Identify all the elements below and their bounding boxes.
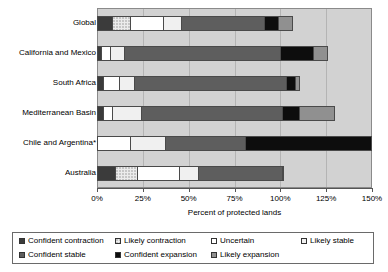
- bar-segment-uncertain[interactable]: [103, 106, 112, 121]
- x-tick-label-50: 50%: [169, 194, 209, 204]
- stacked-bar-south-africa[interactable]: [97, 76, 300, 91]
- bar-segment-confident-stable[interactable]: [181, 16, 264, 31]
- x-tick-25: [143, 188, 144, 192]
- chart-legend: Confident contractionLikely contractionU…: [12, 232, 374, 264]
- stacked-bar-australia[interactable]: [97, 166, 284, 181]
- bar-segment-likely-expansion[interactable]: [313, 46, 328, 61]
- uncertain-swatch: [211, 238, 217, 244]
- category-label-global: Global: [0, 18, 96, 28]
- bar-segment-confident-expansion[interactable]: [280, 46, 313, 61]
- likely-stable-swatch: [301, 238, 307, 244]
- legend-row: Confident contractionLikely contractionU…: [13, 236, 373, 250]
- bar-segment-likely-expansion[interactable]: [295, 76, 301, 91]
- bar-segment-confident-expansion[interactable]: [264, 16, 279, 31]
- likely-contraction-swatch: [115, 238, 121, 244]
- chart-row: Mediterranean Basin: [0, 98, 388, 128]
- x-tick-label-0: 0%: [77, 194, 117, 204]
- legend-item-confident-expansion[interactable]: Confident expansion: [115, 250, 197, 260]
- stacked-bar-mediterranean-basin[interactable]: [97, 106, 335, 121]
- category-label-mediterranean-basin: Mediterranean Basin: [0, 108, 96, 118]
- x-tick-75: [235, 188, 236, 192]
- x-tick-0: [97, 188, 98, 192]
- bar-segment-likely-stable[interactable]: [179, 166, 197, 181]
- bar-segment-uncertain[interactable]: [130, 16, 163, 31]
- bar-segment-confident-expansion[interactable]: [282, 106, 299, 121]
- chart-row: Global: [0, 8, 388, 38]
- bar-segment-uncertain[interactable]: [103, 76, 120, 91]
- bar-segment-confident-stable[interactable]: [124, 46, 280, 61]
- confident-expansion-swatch: [115, 252, 121, 258]
- bar-segment-confident-expansion[interactable]: [245, 136, 372, 151]
- category-label-california-and-mexico: California and Mexico: [0, 48, 96, 58]
- confident-contraction-swatch: [19, 238, 25, 244]
- bar-segment-uncertain[interactable]: [97, 136, 130, 151]
- chart-row: South Africa: [0, 68, 388, 98]
- legend-label: Confident stable: [28, 250, 86, 260]
- legend-label: Likely expansion: [220, 250, 279, 260]
- bar-segment-uncertain[interactable]: [137, 166, 179, 181]
- legend-item-confident-contraction[interactable]: Confident contraction: [19, 236, 104, 246]
- bar-segment-confident-stable[interactable]: [141, 106, 282, 121]
- x-tick-50: [189, 188, 190, 192]
- stacked-bar-global[interactable]: [97, 16, 293, 31]
- bar-segment-confident-expansion[interactable]: [286, 76, 295, 91]
- bar-segment-likely-contraction[interactable]: [112, 16, 130, 31]
- category-label-australia: Australia: [0, 168, 96, 178]
- chart-row: Australia: [0, 158, 388, 188]
- bar-segment-confident-stable[interactable]: [165, 136, 246, 151]
- legend-label: Likely contraction: [124, 236, 186, 246]
- bar-segment-likely-expansion[interactable]: [278, 16, 293, 31]
- x-tick-100: [280, 188, 281, 192]
- chart-row: California and Mexico: [0, 38, 388, 68]
- confident-stable-swatch: [19, 252, 25, 258]
- stacked-bar-chile-and-argentina[interactable]: [97, 136, 372, 151]
- legend-row: Confident stableConfident expansionLikel…: [13, 250, 373, 264]
- bar-segment-confident-contraction[interactable]: [97, 166, 115, 181]
- x-tick-label-75: 75%: [215, 194, 255, 204]
- bar-segment-likely-contraction[interactable]: [115, 166, 137, 181]
- legend-label: Confident contraction: [28, 236, 104, 246]
- bar-segment-uncertain[interactable]: [101, 46, 110, 61]
- bar-segment-likely-stable[interactable]: [112, 106, 141, 121]
- x-tick-150: [372, 188, 373, 192]
- bar-chart: GlobalCalifornia and MexicoSouth AfricaM…: [0, 0, 388, 272]
- bar-segment-likely-stable[interactable]: [119, 76, 134, 91]
- bar-segment-likely-stable[interactable]: [163, 16, 181, 31]
- legend-label: Likely stable: [310, 236, 354, 246]
- stacked-bar-california-and-mexico[interactable]: [97, 46, 328, 61]
- x-tick-label-100: 100%: [260, 194, 300, 204]
- legend-item-uncertain[interactable]: Uncertain: [211, 236, 254, 246]
- legend-item-confident-stable[interactable]: Confident stable: [19, 250, 86, 260]
- legend-label: Uncertain: [220, 236, 254, 246]
- legend-label: Confident expansion: [124, 250, 197, 260]
- chart-row: Chile and Argentina*: [0, 128, 388, 158]
- bar-segment-confident-stable[interactable]: [134, 76, 286, 91]
- bar-segment-likely-expansion[interactable]: [299, 106, 336, 121]
- legend-item-likely-stable[interactable]: Likely stable: [301, 236, 354, 246]
- bar-segment-likely-stable[interactable]: [130, 136, 165, 151]
- bar-segment-confident-contraction[interactable]: [97, 16, 112, 31]
- x-tick-label-25: 25%: [123, 194, 163, 204]
- category-label-south-africa: South Africa: [0, 78, 96, 88]
- legend-item-likely-contraction[interactable]: Likely contraction: [115, 236, 186, 246]
- x-tick-label-125: 125%: [306, 194, 346, 204]
- bar-segment-confident-stable[interactable]: [198, 166, 282, 181]
- x-tick-125: [326, 188, 327, 192]
- x-axis-title: Percent of protected lands: [97, 208, 372, 218]
- likely-expansion-swatch: [211, 252, 217, 258]
- category-label-chile-and-argentina: Chile and Argentina*: [0, 138, 96, 148]
- bar-segment-likely-stable[interactable]: [110, 46, 125, 61]
- x-tick-label-150: 150%: [352, 194, 388, 204]
- legend-item-likely-expansion[interactable]: Likely expansion: [211, 250, 279, 260]
- bar-segment-confident-expansion[interactable]: [282, 166, 284, 181]
